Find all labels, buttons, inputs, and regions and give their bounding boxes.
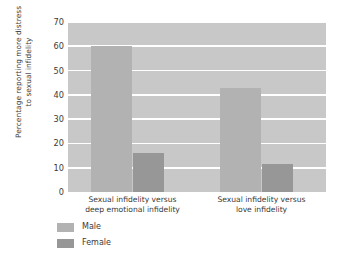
bar-male-group-1 [91, 46, 132, 192]
bar-chart-figure: Percentage reporting more distress to se… [0, 0, 342, 267]
y-axis-tick-label: 0 [42, 188, 64, 196]
y-axis-tick-label: 50 [42, 66, 64, 74]
legend-item-female: Female [57, 236, 177, 250]
y-axis-tick-label: 70 [42, 18, 64, 26]
y-axis-tick-label: 60 [42, 42, 64, 50]
legend-swatch-male-icon [57, 223, 74, 232]
y-axis-tick-labels: 010203040506070 [42, 22, 64, 192]
y-axis-title: Percentage reporting more distress to se… [14, 0, 44, 157]
y-axis-tick-label: 10 [42, 164, 64, 172]
x-axis-tick-label: Sexual infidelity versus deep emotional … [63, 195, 203, 215]
legend-swatch-female-icon [57, 239, 74, 248]
legend-label: Female [82, 239, 111, 247]
bar-male-group-2 [220, 88, 261, 192]
legend-item-male: Male [57, 220, 177, 234]
chart-legend: MaleFemale [57, 220, 177, 252]
y-axis-tick-label: 30 [42, 115, 64, 123]
x-axis-tick-labels: Sexual infidelity versus deep emotional … [68, 195, 326, 219]
x-axis-tick-label: Sexual infidelity versus love infidelity [192, 195, 332, 215]
y-axis-tick-label: 20 [42, 139, 64, 147]
legend-label: Male [82, 223, 101, 231]
gridline [68, 22, 326, 23]
bar-female-group-1 [133, 153, 164, 192]
plot-area [68, 22, 326, 192]
y-axis-tick-label: 40 [42, 91, 64, 99]
bar-female-group-2 [262, 164, 293, 192]
